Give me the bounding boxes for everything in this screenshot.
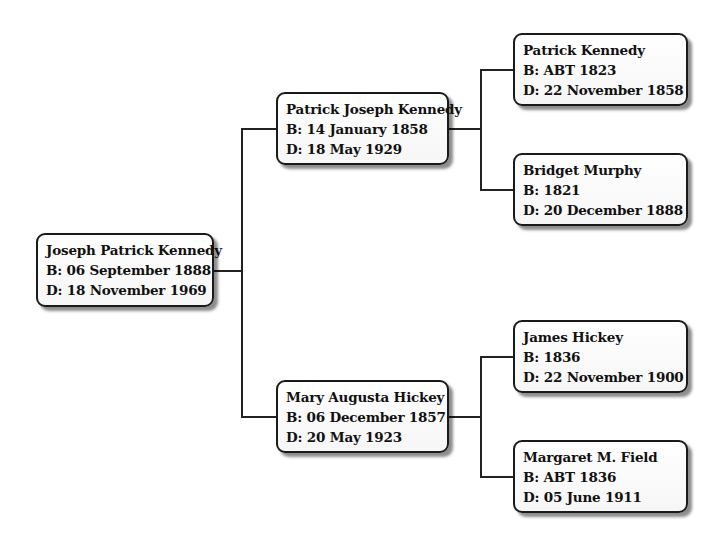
connector-maternal-grandmother: [480, 476, 513, 478]
person-name: Patrick Joseph Kennedy: [286, 99, 447, 119]
person-box-maternal-grandmother[interactable]: Margaret M. Field B: ABT 1836 D: 05 June…: [513, 440, 688, 513]
connector-root: [213, 270, 242, 272]
connector-parents-spine: [241, 128, 243, 417]
person-box-paternal-grandfather[interactable]: Patrick Kennedy B: ABT 1823 D: 22 Novemb…: [513, 33, 688, 106]
person-birth: B: ABT 1823: [523, 60, 686, 80]
person-birth: B: 1821: [523, 180, 686, 200]
person-birth: B: 06 December 1857: [286, 407, 447, 427]
connector-mother-out: [448, 416, 481, 418]
person-death: D: 18 May 1929: [286, 139, 447, 159]
person-birth: B: 14 January 1858: [286, 119, 447, 139]
person-birth: B: ABT 1836: [523, 467, 686, 487]
person-death: D: 05 June 1911: [523, 487, 686, 507]
person-birth: B: 06 September 1888: [46, 260, 212, 280]
connector-maternal-spine: [480, 356, 482, 477]
person-birth: B: 1836: [523, 347, 686, 367]
connector-mother: [241, 416, 276, 418]
person-death: D: 20 May 1923: [286, 427, 447, 447]
person-box-maternal-grandfather[interactable]: James Hickey B: 1836 D: 22 November 1900: [513, 320, 688, 393]
person-box-root[interactable]: Joseph Patrick Kennedy B: 06 September 1…: [36, 233, 214, 307]
connector-paternal-grandmother: [480, 189, 513, 191]
person-box-paternal-grandmother[interactable]: Bridget Murphy B: 1821 D: 20 December 18…: [513, 153, 688, 226]
connector-maternal-grandfather: [480, 356, 513, 358]
person-box-mother[interactable]: Mary Augusta Hickey B: 06 December 1857 …: [276, 380, 449, 453]
person-death: D: 18 November 1969: [46, 280, 212, 300]
person-name: Joseph Patrick Kennedy: [46, 240, 212, 260]
person-box-father[interactable]: Patrick Joseph Kennedy B: 14 January 185…: [276, 92, 449, 165]
person-name: Patrick Kennedy: [523, 40, 686, 60]
person-death: D: 20 December 1888: [523, 200, 686, 220]
person-name: Mary Augusta Hickey: [286, 387, 447, 407]
connector-paternal-spine: [480, 69, 482, 190]
person-name: Bridget Murphy: [523, 160, 686, 180]
connector-father-out: [448, 128, 481, 130]
connector-father: [241, 128, 276, 130]
person-death: D: 22 November 1900: [523, 367, 686, 387]
person-name: Margaret M. Field: [523, 447, 686, 467]
person-death: D: 22 November 1858: [523, 80, 686, 100]
person-name: James Hickey: [523, 327, 686, 347]
connector-paternal-grandfather: [480, 69, 513, 71]
